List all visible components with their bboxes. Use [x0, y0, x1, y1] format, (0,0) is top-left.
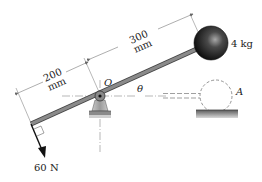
lever-diagram: 200 mm 300 mm A	[0, 0, 262, 182]
angle-label-theta: θ	[137, 83, 143, 94]
force-arrow	[31, 124, 46, 158]
ball-mass	[194, 26, 228, 60]
dashed-path-to-a	[163, 94, 200, 99]
dimension-extensions	[16, 14, 199, 123]
dashed-ball-outline	[200, 80, 232, 112]
pivot-support	[89, 100, 111, 118]
position-a	[196, 80, 238, 118]
position-a-label: A	[235, 86, 243, 97]
force-label: 60 N	[34, 162, 59, 173]
dimension-200mm: 200 mm	[18, 62, 88, 93]
mass-label: 4 kg	[231, 38, 254, 49]
ground-block	[196, 110, 238, 118]
dimension-300mm: 300 mm	[90, 14, 193, 59]
pivot-label-o: O	[104, 77, 112, 88]
pivot-pin	[95, 91, 105, 101]
